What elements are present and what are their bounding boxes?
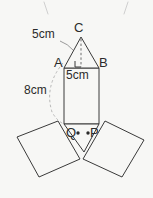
leader-line-slant <box>60 41 73 50</box>
figure-canvas: C A B Q P 5cm 5cm 8cm <box>0 0 153 198</box>
scan-artifacts <box>44 2 128 14</box>
vertex-label-q: Q <box>66 126 76 139</box>
dimension-label-height: 8cm <box>24 84 47 96</box>
point-marker-Q <box>76 131 79 134</box>
leader-line-height <box>50 63 64 124</box>
dimension-label-slant: 5cm <box>32 28 55 40</box>
dimension-label-base: 5cm <box>66 69 89 81</box>
vertex-label-b: B <box>99 56 108 69</box>
vertex-label-p: P <box>90 126 99 139</box>
vertex-label-c: C <box>74 21 83 34</box>
vertex-label-a: A <box>54 56 63 69</box>
